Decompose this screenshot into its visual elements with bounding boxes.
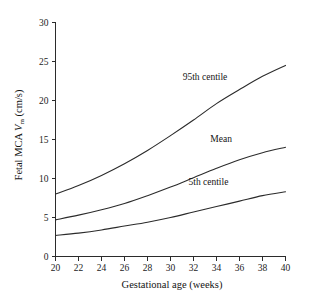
x-axis-title: Gestational age (weeks) xyxy=(122,279,223,291)
curve-annotations: 95th centileMean5th centile xyxy=(183,72,232,187)
x-tick-label: 38 xyxy=(258,263,268,273)
x-tick-label: 34 xyxy=(212,263,222,273)
curve-label-95th-centile: 95th centile xyxy=(183,72,228,82)
y-tick-label: 15 xyxy=(39,135,49,145)
y-tick-label: 20 xyxy=(39,96,49,106)
x-tick-label: 36 xyxy=(235,263,245,273)
curve-label-mean: Mean xyxy=(210,134,232,144)
chart-canvas: 051015202530 2022242628303234363840 95th… xyxy=(0,0,309,299)
x-tick-label: 40 xyxy=(281,263,291,273)
x-tick-label: 24 xyxy=(97,263,107,273)
data-curves xyxy=(56,65,286,235)
curve-label-5th-centile: 5th centile xyxy=(189,177,229,187)
x-tick-label: 28 xyxy=(143,263,153,273)
y-tick-label: 30 xyxy=(39,18,49,28)
x-tick-label: 32 xyxy=(189,263,199,273)
y-tick-label: 10 xyxy=(39,174,49,184)
x-tick-label: 30 xyxy=(166,263,176,273)
y-axis-title: Fetal MCA Vm (cm/s) xyxy=(13,89,26,180)
x-tick-label: 20 xyxy=(51,263,61,273)
x-tick-label: 22 xyxy=(74,263,84,273)
y-tick-label: 0 xyxy=(44,252,49,262)
chart-figure: 051015202530 2022242628303234363840 95th… xyxy=(0,0,309,299)
y-axis-ticks: 051015202530 xyxy=(39,18,56,262)
x-axis-ticks: 2022242628303234363840 xyxy=(51,257,291,273)
x-tick-label: 26 xyxy=(120,263,130,273)
curve-95th-centile xyxy=(56,65,286,194)
curve-mean xyxy=(56,147,286,220)
y-tick-label: 5 xyxy=(44,213,49,223)
curve-5th-centile xyxy=(56,192,286,236)
y-tick-label: 25 xyxy=(39,57,49,67)
